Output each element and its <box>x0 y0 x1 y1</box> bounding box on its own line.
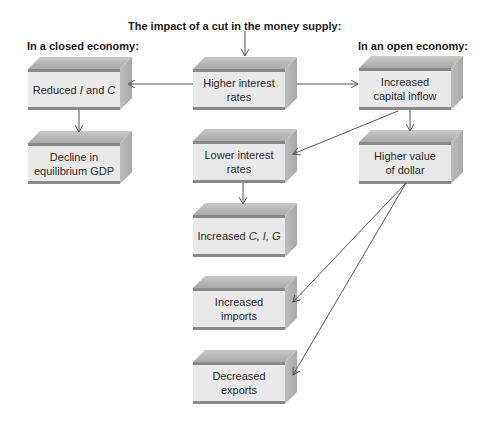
arrow-value-dollar-to-increased-imports <box>293 183 406 302</box>
arrow-value-dollar-to-decreased-exports <box>293 183 406 375</box>
arrows-layer <box>0 0 491 422</box>
arrow-capital-inflow-to-lower-interest <box>293 111 398 154</box>
